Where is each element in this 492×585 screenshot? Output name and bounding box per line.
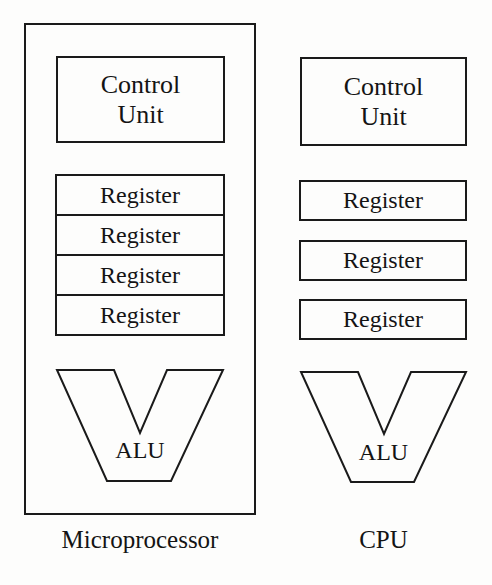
control-unit-label-line2: Unit <box>117 100 163 129</box>
register-label: Register <box>343 306 423 333</box>
register-label: Register <box>100 262 180 289</box>
alu-funnel-icon <box>299 370 468 485</box>
microprocessor-control-unit-box: ControlUnit <box>56 56 225 143</box>
register-label: Register <box>343 247 423 274</box>
cpu-control-unit-box: ControlUnit <box>300 57 467 146</box>
control-unit-label-line1: Control <box>101 70 180 99</box>
register-row: Register <box>57 256 223 296</box>
cpu-caption: CPU <box>299 527 468 552</box>
diagram-canvas: ControlUnit Register Register Register R… <box>0 0 492 585</box>
register-label: Register <box>343 187 423 214</box>
register-row: Register <box>57 296 223 334</box>
cpu-register-box: Register <box>299 240 467 281</box>
register-row: Register <box>57 176 223 216</box>
control-unit-label: ControlUnit <box>344 72 423 130</box>
register-label: Register <box>100 222 180 249</box>
microprocessor-register-stack: Register Register Register Register <box>55 174 225 336</box>
control-unit-label: ControlUnit <box>101 70 180 128</box>
alu-label: ALU <box>299 439 468 466</box>
alu-funnel-icon <box>55 368 225 484</box>
cpu-alu-shape: ALU <box>299 370 468 485</box>
control-unit-label-line1: Control <box>344 72 423 101</box>
register-label: Register <box>100 302 180 329</box>
microprocessor-alu-shape: ALU <box>55 368 225 484</box>
register-row: Register <box>57 216 223 256</box>
microprocessor-caption: Microprocessor <box>24 527 256 552</box>
cpu-register-box: Register <box>299 180 467 221</box>
register-label: Register <box>100 182 180 209</box>
cpu-register-box: Register <box>299 299 467 340</box>
alu-label: ALU <box>55 437 225 464</box>
control-unit-label-line2: Unit <box>360 102 406 131</box>
